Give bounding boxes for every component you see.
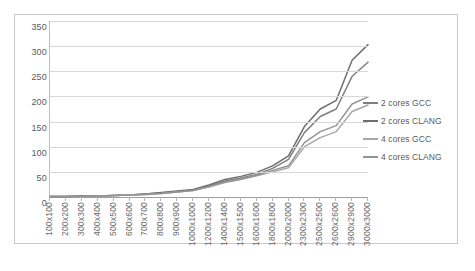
legend-item[interactable]: 4 cores CLANG	[363, 149, 442, 165]
x-tick-label: 1800x1800	[267, 202, 277, 246]
x-axis: 100x100200x200300x300400x400500x500600x6…	[49, 202, 367, 262]
chart-frame: 350300250200150100500 100x100200x200300x…	[14, 14, 458, 244]
x-tick-label: 1200x1200	[203, 202, 213, 246]
gridline	[50, 96, 368, 97]
x-tick	[129, 197, 130, 201]
x-tick	[176, 197, 177, 201]
legend-color-swatch	[363, 102, 378, 104]
series-line	[50, 45, 368, 197]
x-tick-label: 400x400	[92, 202, 102, 236]
x-tick-label: 3000x3000	[362, 202, 372, 246]
x-axis-ticks	[49, 197, 367, 201]
x-tick	[224, 197, 225, 201]
y-tick-label: 100	[31, 148, 47, 158]
gridline	[50, 172, 368, 173]
series-line	[50, 62, 368, 196]
legend-item-label: 2 cores CLANG	[381, 116, 442, 126]
gridline	[50, 147, 368, 148]
legend-item-label: 4 cores GCC	[381, 134, 431, 144]
x-tick	[144, 197, 145, 201]
x-tick	[192, 197, 193, 201]
x-tick-label: 2000x2000	[283, 202, 293, 246]
legend-item[interactable]: 2 cores CLANG	[363, 113, 442, 129]
y-tick-label: 300	[31, 47, 47, 57]
plot-area	[49, 21, 368, 198]
x-tick	[319, 197, 320, 201]
x-tick-label: 600x600	[124, 202, 134, 236]
x-tick	[97, 197, 98, 201]
legend-item-label: 2 cores GCC	[381, 98, 431, 108]
x-tick-label: 500x500	[108, 202, 118, 236]
chart-legend: 2 cores GCC2 cores CLANG4 cores GCC4 cor…	[363, 95, 457, 167]
gridline	[50, 46, 368, 47]
x-tick-label: 2300x2300	[298, 202, 308, 246]
legend-item[interactable]: 2 cores GCC	[363, 95, 431, 111]
legend-color-swatch	[363, 156, 378, 158]
series-lines	[50, 21, 368, 197]
y-tick-label: 200	[31, 97, 47, 107]
x-tick-label: 100x100	[44, 202, 54, 236]
x-tick	[303, 197, 304, 201]
gridline	[50, 21, 368, 22]
x-tick	[335, 197, 336, 201]
x-tick	[240, 197, 241, 201]
series-line	[50, 105, 368, 197]
x-tick-label: 1000x1000	[187, 202, 197, 246]
x-tick-label: 300x300	[76, 202, 86, 236]
x-tick	[65, 197, 66, 201]
x-tick-label: 200x200	[60, 202, 70, 236]
x-tick	[256, 197, 257, 201]
x-tick	[367, 197, 368, 201]
x-tick-label: 1500x1500	[235, 202, 245, 246]
x-tick-label: 2500x2500	[314, 202, 324, 246]
y-tick-label: 350	[31, 22, 47, 32]
x-tick-label: 2600x2600	[330, 202, 340, 246]
x-tick	[81, 197, 82, 201]
x-tick	[272, 197, 273, 201]
legend-color-swatch	[363, 120, 378, 122]
x-tick-label: 1400x1400	[219, 202, 229, 246]
y-tick-label: 250	[31, 72, 47, 82]
y-axis: 350300250200150100500	[21, 21, 47, 197]
x-tick	[288, 197, 289, 201]
legend-item-label: 4 cores CLANG	[381, 152, 442, 162]
x-tick-label: 700x700	[139, 202, 149, 236]
x-tick	[49, 197, 50, 201]
legend-color-swatch	[363, 138, 378, 140]
gridline	[50, 71, 368, 72]
gridline	[50, 122, 368, 123]
x-tick-label: 900x900	[171, 202, 181, 236]
x-tick	[160, 197, 161, 201]
x-tick	[113, 197, 114, 201]
legend-item[interactable]: 4 cores GCC	[363, 131, 431, 147]
y-tick-label: 50	[37, 173, 47, 183]
x-tick-label: 2900x2900	[346, 202, 356, 246]
x-tick-label: 1600x1600	[251, 202, 261, 246]
chart-plot-wrapper: 350300250200150100500 100x100200x200300x…	[15, 15, 459, 245]
x-tick	[208, 197, 209, 201]
y-tick-label: 150	[31, 123, 47, 133]
x-tick-label: 800x800	[155, 202, 165, 236]
x-tick	[351, 197, 352, 201]
